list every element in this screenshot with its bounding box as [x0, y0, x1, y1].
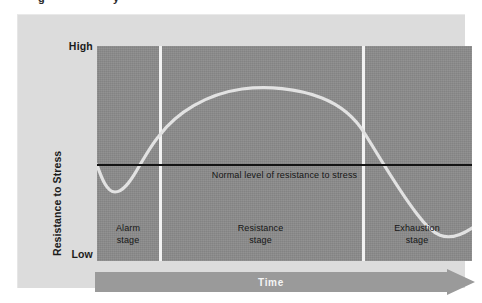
time-axis-label: Time	[95, 269, 447, 295]
y-axis-tick-low: Low	[57, 248, 93, 260]
cropped-title-remnant: g y	[0, 0, 482, 5]
y-axis-title: Resistance to Stress	[51, 151, 63, 256]
figure-panel: Resistance to Stress High Low Normal lev…	[17, 14, 465, 288]
stage-label-resistance: Resistance stage	[159, 222, 362, 246]
stage-label-exhaustion-line1: Exhaustion	[394, 223, 440, 233]
stage-label-exhaustion-line2: stage	[362, 234, 472, 246]
stage-label-alarm-line2: stage	[97, 234, 159, 246]
title-remnant-glyph: g	[38, 0, 45, 3]
stage-label-exhaustion: Exhaustion stage	[362, 222, 472, 246]
title-remnant-glyph: y	[113, 0, 119, 3]
normal-resistance-reference-line	[97, 164, 472, 166]
plot-area: Normal level of resistance to stress Ala…	[97, 46, 472, 261]
stage-label-resistance-line1: Resistance	[238, 223, 284, 233]
normal-resistance-line-label: Normal level of resistance to stress	[97, 170, 472, 180]
stage-label-alarm: Alarm stage	[97, 222, 159, 246]
time-axis-arrow: Time	[95, 269, 475, 295]
stage-label-resistance-line2: stage	[159, 234, 362, 246]
y-axis-tick-high: High	[57, 40, 93, 52]
stage-label-alarm-line1: Alarm	[116, 223, 140, 233]
